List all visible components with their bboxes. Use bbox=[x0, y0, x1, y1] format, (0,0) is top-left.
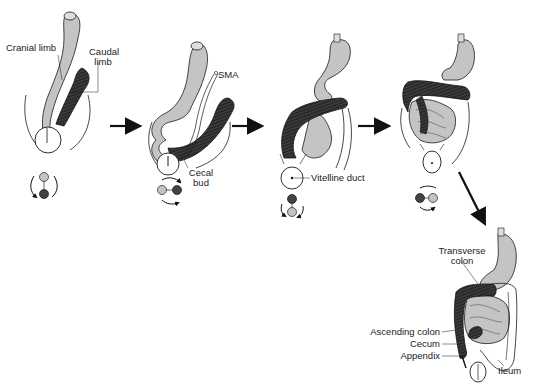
label-cranial-limb: Cranial limb bbox=[6, 43, 56, 53]
stage-3-gut-loop bbox=[280, 34, 351, 189]
label-ascending-colon: Ascending colon bbox=[360, 327, 440, 337]
label-vitelline-duct: Vitelline duct bbox=[311, 173, 365, 183]
label-cecal-bud-line2: bud bbox=[186, 178, 216, 188]
stage-1-rotation-indicator bbox=[31, 173, 57, 199]
stage-4-rotation-indicator bbox=[416, 186, 438, 210]
label-appendix: Appendix bbox=[380, 351, 440, 361]
arrow-stage-4-to-5 bbox=[459, 172, 484, 222]
stage-2-gut-loop bbox=[149, 42, 234, 175]
diagram-canvas bbox=[0, 0, 537, 389]
label-cecum: Cecum bbox=[380, 339, 440, 349]
stage-1-gut-loop bbox=[25, 12, 98, 153]
label-caudal-limb-line2: limb bbox=[89, 57, 117, 67]
label-ileum: Ileum bbox=[498, 366, 521, 376]
stage-3-rotation-indicator bbox=[281, 195, 303, 218]
label-sma: SMA bbox=[218, 70, 239, 80]
label-transverse-colon-line2: colon bbox=[436, 256, 488, 266]
midgut-rotation-diagram: Cranial limb Caudal limb SMA Cecal bud V… bbox=[0, 0, 537, 389]
stage-4-gut bbox=[401, 34, 475, 173]
stage-2-rotation-indicator bbox=[158, 178, 182, 204]
